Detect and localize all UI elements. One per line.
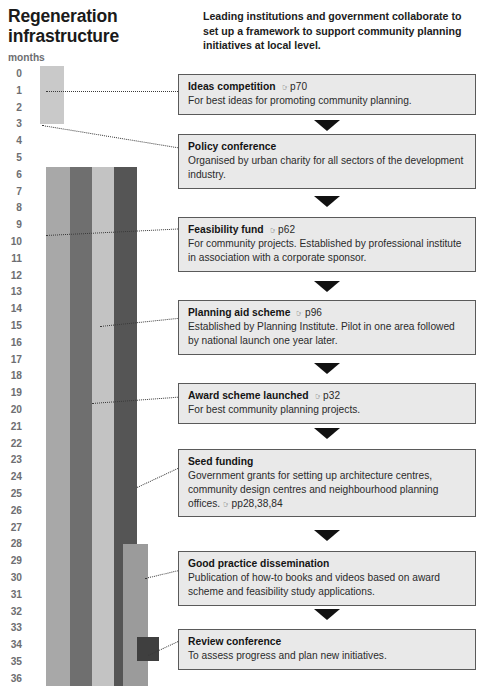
- milestone-body: For best ideas for promoting community p…: [188, 94, 467, 108]
- milestone-box[interactable]: Feasibility fund☞p62For community projec…: [178, 217, 476, 272]
- milestone-heading: Policy conference: [188, 140, 467, 153]
- gantt-bar: [70, 167, 92, 686]
- intro-paragraph: Leading institutions and government coll…: [203, 9, 477, 53]
- milestone-heading: Planning aid scheme☞p96: [188, 306, 467, 319]
- milestone-heading: Seed funding: [188, 455, 467, 468]
- down-arrow-icon: [314, 363, 340, 374]
- milestone-body: For best community planning projects.: [188, 403, 467, 417]
- milestone-heading: Review conference: [188, 635, 467, 648]
- milestone-box[interactable]: Planning aid scheme☞p96Established by Pl…: [178, 300, 476, 355]
- page-reference[interactable]: ☞p70: [282, 81, 308, 92]
- milestone-box[interactable]: Policy conferenceOrganised by urban char…: [178, 134, 476, 189]
- milestone-heading: Award scheme launched☞p32: [188, 389, 467, 402]
- milestone-box[interactable]: Ideas competition☞p70For best ideas for …: [178, 74, 476, 115]
- page-title: Regeneration infrastructure: [8, 6, 178, 47]
- milestone-heading: Ideas competition☞p70: [188, 80, 467, 93]
- milestone-box[interactable]: Good practice disseminationPublication o…: [178, 551, 476, 606]
- milestone-body: For community projects. Established by p…: [188, 237, 467, 264]
- milestone-body: Organised by urban charity for all secto…: [188, 154, 467, 181]
- pointing-hand-icon: ☞: [223, 499, 230, 509]
- page-reference[interactable]: ☞p32: [315, 390, 341, 401]
- milestone-heading: Feasibility fund☞p62: [188, 223, 467, 236]
- milestone-body: To assess progress and plan new initiati…: [188, 649, 467, 663]
- down-arrow-icon: [314, 281, 340, 292]
- gantt-bar: [123, 544, 148, 686]
- axis-label-months: months: [8, 52, 45, 63]
- down-arrow-icon: [314, 196, 340, 207]
- milestone-box[interactable]: Award scheme launched☞p32For best commun…: [178, 383, 476, 424]
- down-arrow-icon: [314, 530, 340, 541]
- milestone-body: Government grants for setting up archite…: [188, 469, 467, 510]
- gantt-bar: [46, 167, 70, 686]
- milestone-box[interactable]: Review conferenceTo assess progress and …: [178, 629, 476, 670]
- pointing-hand-icon: ☞: [296, 308, 303, 318]
- gantt-bar: [92, 167, 114, 686]
- page-reference[interactable]: ☞p62: [270, 224, 296, 235]
- milestone-body: Established by Planning Institute. Pilot…: [188, 320, 467, 347]
- down-arrow-icon: [314, 120, 340, 131]
- pointing-hand-icon: ☞: [282, 82, 289, 92]
- gantt-bars: [0, 66, 175, 681]
- page-reference[interactable]: ☞pp28,38,84: [223, 498, 283, 509]
- pointing-hand-icon: ☞: [270, 225, 277, 235]
- down-arrow-icon: [314, 428, 340, 439]
- pointing-hand-icon: ☞: [315, 391, 322, 401]
- page-reference[interactable]: ☞p96: [296, 307, 322, 318]
- milestone-heading: Good practice dissemination: [188, 557, 467, 570]
- gantt-bar: [137, 637, 159, 662]
- milestone-body: Publication of how-to books and videos b…: [188, 571, 467, 598]
- milestone-box[interactable]: Seed fundingGovernment grants for settin…: [178, 449, 476, 517]
- gantt-bar: [40, 66, 64, 124]
- down-arrow-icon: [314, 609, 340, 620]
